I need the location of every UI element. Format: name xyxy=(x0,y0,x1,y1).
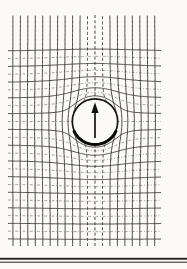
figure-page xyxy=(0,0,187,269)
field-diagram xyxy=(0,0,187,269)
footer-rule-thin xyxy=(0,262,187,263)
footer-rule-thick xyxy=(0,258,187,260)
